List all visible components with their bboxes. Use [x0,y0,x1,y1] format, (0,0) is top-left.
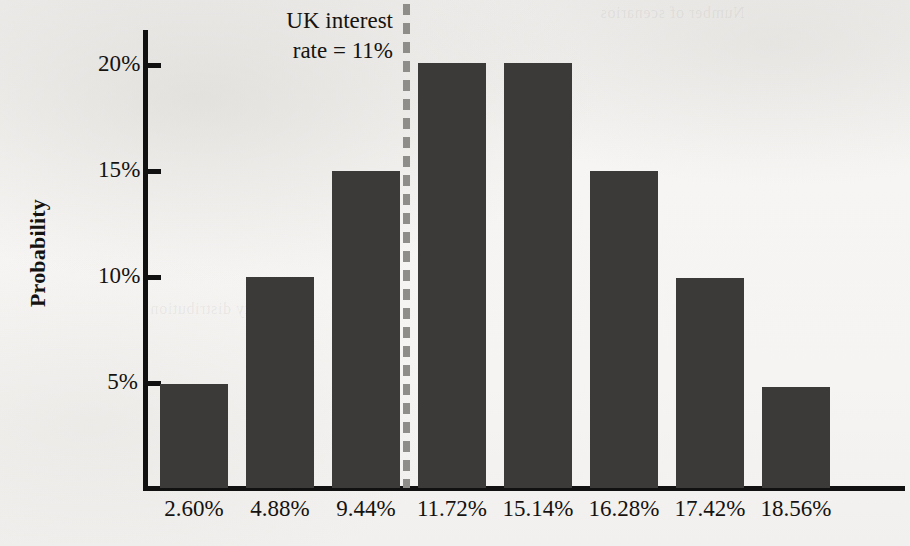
y-tick-label-10: 10% [98,264,138,287]
bar-5 [504,63,572,488]
x-tick-label-5: 15.14% [492,497,584,520]
bar-chart: Probability 5% 10% 15% 20% 2.60% 4.88% 9… [0,0,910,546]
x-tick-label-4: 11.72% [406,497,498,520]
x-tick-label-8: 18.56% [750,497,842,520]
bar-2 [246,277,314,488]
uk-interest-rate-threshold-line [403,4,410,488]
bar-3 [332,171,400,488]
x-tick-label-6: 16.28% [578,497,670,520]
bar-6 [590,171,658,488]
x-tick-label-1: 2.60% [148,497,240,520]
y-tick-label-5: 5% [98,370,138,393]
bar-4 [418,63,486,488]
annotation-line-2: rate = 11% [213,36,393,66]
y-tick-label-20: 20% [98,52,138,75]
x-tick-label-7: 17.42% [664,497,756,520]
x-tick-label-3: 9.44% [320,497,412,520]
x-tick-label-2: 4.88% [234,497,326,520]
bar-7 [676,278,744,488]
y-tick-mark-20 [148,63,161,68]
y-tick-mark-15 [148,169,161,174]
annotation-line-1: UK interest [213,6,393,36]
uk-interest-rate-annotation: UK interest rate = 11% [213,6,393,67]
y-axis-line [143,30,148,488]
y-axis-title: Probability [25,163,51,343]
bar-1 [160,384,228,488]
y-tick-label-15: 15% [98,158,138,181]
y-tick-mark-10 [148,275,161,280]
bar-8 [762,387,830,488]
